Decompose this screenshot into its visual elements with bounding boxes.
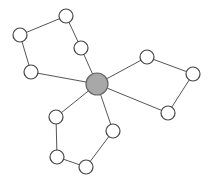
nodes-layer [13,9,200,174]
node-b2 [186,67,200,81]
node-c4 [49,110,63,124]
node-b1 [140,50,154,64]
node-b3 [161,106,175,120]
node-a3 [59,9,73,23]
node-a1 [24,65,38,79]
hub-node [86,73,108,95]
node-a2 [13,28,27,42]
graph-diagram [0,0,211,184]
node-c2 [79,160,93,174]
node-a4 [74,41,88,55]
node-c3 [50,150,64,164]
edges-layer [20,16,193,167]
node-c1 [106,124,120,138]
